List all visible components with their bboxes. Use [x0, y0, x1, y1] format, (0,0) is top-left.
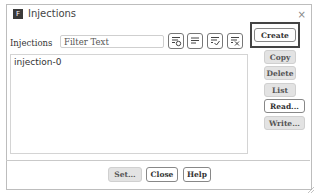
window-title: Injections — [28, 8, 76, 19]
filter-match-button[interactable] — [168, 33, 184, 49]
close-button[interactable]: Close — [146, 167, 178, 182]
copy-button[interactable]: Copy — [264, 50, 296, 64]
clear-selection-button[interactable] — [227, 33, 243, 49]
injections-label: Injections — [10, 38, 52, 48]
select-all-icon — [189, 35, 201, 47]
create-button[interactable]: Create — [254, 28, 296, 42]
clear-selection-icon — [229, 35, 241, 47]
select-checked-icon — [209, 35, 221, 47]
filter-text-input[interactable]: Filter Text — [60, 35, 164, 48]
footer-divider — [6, 160, 310, 161]
help-button[interactable]: Help — [183, 167, 211, 182]
filter-match-icon — [170, 35, 182, 47]
set-button[interactable]: Set... — [108, 167, 142, 182]
list-button[interactable]: List — [264, 83, 296, 97]
write-button[interactable]: Write... — [264, 116, 305, 130]
resize-grip-icon[interactable] — [308, 187, 314, 193]
close-icon[interactable]: × — [298, 9, 306, 20]
select-checked-button[interactable] — [207, 33, 223, 49]
app-icon: F — [13, 9, 23, 19]
injections-list[interactable]: injection-0 — [10, 54, 248, 154]
read-button[interactable]: Read... — [264, 99, 305, 113]
select-all-button[interactable] — [187, 33, 203, 49]
list-item[interactable]: injection-0 — [14, 57, 61, 67]
delete-button[interactable]: Delete — [264, 66, 296, 80]
